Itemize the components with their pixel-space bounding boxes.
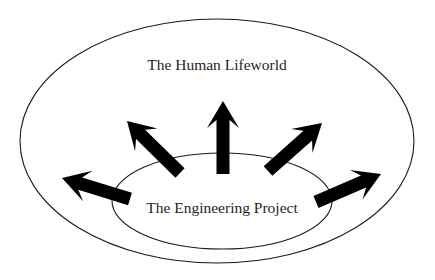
arrow-upper-left — [127, 121, 185, 178]
arrow-up — [207, 101, 239, 174]
diagram-svg: The Human Lifeworld The Engineering Proj… — [0, 0, 435, 280]
inner-region-label: The Engineering Project — [146, 199, 298, 216]
arrow-left — [62, 171, 132, 206]
outer-region-label: The Human Lifeworld — [147, 56, 287, 73]
radiating-arrows-group — [62, 101, 381, 208]
diagram-canvas: The Human Lifeworld The Engineering Proj… — [0, 0, 435, 280]
arrow-right — [313, 170, 381, 208]
arrow-upper-right — [264, 123, 322, 176]
